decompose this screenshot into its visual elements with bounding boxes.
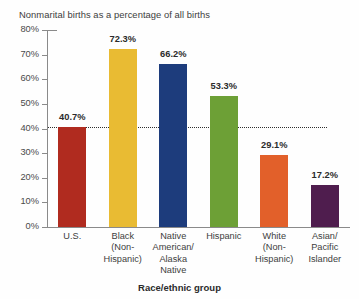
x-axis-category-label: Native American/ Alaska Native xyxy=(144,231,202,277)
x-axis-category-label: Hispanic xyxy=(195,231,253,242)
y-axis-tick-mark xyxy=(42,55,47,56)
y-axis-tick-label: 0% xyxy=(4,222,39,231)
bar-value-label: 29.1% xyxy=(244,141,304,150)
y-axis-tick-label: 20% xyxy=(4,173,39,182)
axis-corner-top xyxy=(47,30,57,31)
y-axis-tick-mark xyxy=(42,104,47,105)
bar xyxy=(210,96,238,227)
bar xyxy=(109,49,137,227)
y-axis-tick-mark xyxy=(42,178,47,179)
axis-line-left xyxy=(47,30,48,228)
axis-line-bottom xyxy=(47,227,350,228)
y-axis-tick-mark xyxy=(42,30,47,31)
y-axis-tick-mark xyxy=(42,202,47,203)
bar-value-label: 40.7% xyxy=(42,113,102,122)
x-axis-category-label: U.S. xyxy=(43,231,101,242)
x-axis-title: Race/ethnic group xyxy=(0,282,359,293)
y-axis-tick-mark xyxy=(42,153,47,154)
bar xyxy=(260,155,288,227)
bar-value-label: 72.3% xyxy=(93,35,153,44)
bar-value-label: 66.2% xyxy=(143,50,203,59)
bar-value-label: 53.3% xyxy=(194,82,254,91)
y-axis-tick-label: 10% xyxy=(4,197,39,206)
y-axis-tick-label: 50% xyxy=(4,99,39,108)
y-axis-tick-mark xyxy=(42,79,47,80)
x-axis-category-label: Asian/ Pacific Islander xyxy=(296,231,354,265)
y-axis-tick-mark xyxy=(42,227,47,228)
bar xyxy=(58,127,86,227)
plot-area: 0%10%20%30%40%50%60%70%80% 40.7%72.3%66.… xyxy=(47,30,350,227)
bar-value-label: 17.2% xyxy=(295,171,355,180)
y-axis-tick-label: 30% xyxy=(4,148,39,157)
y-axis-tick-label: 70% xyxy=(4,50,39,59)
chart-title: Nonmarital births as a percentage of all… xyxy=(19,9,210,20)
bar xyxy=(311,185,339,227)
reference-line-40-percent xyxy=(48,127,327,128)
bar xyxy=(159,64,187,227)
y-axis-tick-label: 80% xyxy=(4,25,39,34)
bar-chart-figure: Nonmarital births as a percentage of all… xyxy=(0,0,359,299)
y-axis-tick-mark xyxy=(42,129,47,130)
y-axis-tick-label: 60% xyxy=(4,74,39,83)
x-axis-category-label: White (Non- Hispanic) xyxy=(245,231,303,265)
y-axis-tick-label: 40% xyxy=(4,124,39,133)
x-axis-category-label: Black (Non- Hispanic) xyxy=(94,231,152,265)
